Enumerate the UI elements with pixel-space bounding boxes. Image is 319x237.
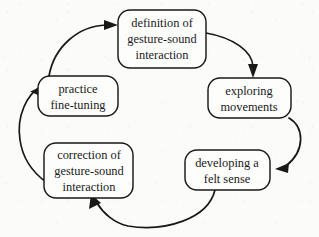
- node-practice[interactable]: practice fine-tuning: [38, 76, 118, 116]
- node-label-line-1: practice: [58, 82, 98, 96]
- cycle-diagram: definition of gesture-sound interaction …: [0, 0, 319, 237]
- node-label-line-3: interaction: [63, 180, 116, 194]
- edge-path: [206, 33, 253, 66]
- node-label-line-1: exploring: [225, 84, 273, 98]
- node-correction[interactable]: correction of gesture-sound interaction: [44, 143, 133, 198]
- diagram-canvas: definition of gesture-sound interaction …: [0, 0, 319, 237]
- edge-path: [49, 25, 106, 76]
- node-label-line-2: fine-tuning: [50, 98, 105, 112]
- node-label-line-1: developing a: [195, 156, 259, 170]
- node-label-line-1: definition of: [131, 16, 193, 30]
- node-label-line-2: gesture-sound: [54, 164, 124, 178]
- node-label-line-2: felt sense: [204, 172, 251, 186]
- edge-practice-to-definition: [49, 20, 118, 76]
- node-label-line-3: interaction: [136, 48, 189, 62]
- node-label-line-2: gesture-sound: [127, 32, 197, 46]
- arrow-head-icon: [248, 64, 258, 78]
- edge-path: [286, 118, 301, 166]
- edge-definition-to-exploring: [206, 33, 258, 78]
- edge-exploring-to-felt-sense: [275, 118, 301, 173]
- arrow-head-icon: [104, 20, 118, 30]
- node-felt-sense[interactable]: developing a felt sense: [185, 150, 270, 190]
- node-label-line-2: movements: [220, 100, 277, 114]
- node-definition[interactable]: definition of gesture-sound interaction: [118, 10, 206, 68]
- node-label-line-1: correction of: [57, 148, 122, 162]
- arrow-head-icon: [275, 163, 289, 173]
- node-exploring[interactable]: exploring movements: [208, 78, 291, 118]
